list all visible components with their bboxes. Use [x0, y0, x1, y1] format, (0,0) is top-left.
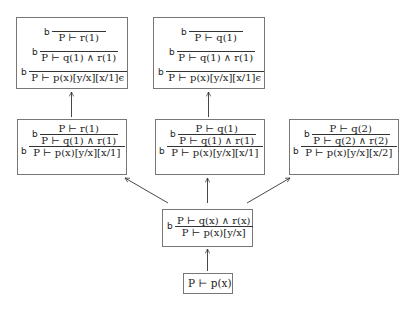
root-judgement: P ⊢ p(x) — [188, 277, 232, 289]
rule-line: b P ⊢ p(x)[y/x][x/1] — [159, 146, 263, 158]
rule-line: b P ⊢ q(2) P ⊢ q(2) ∧ r(2) — [304, 123, 390, 146]
rule-label: b — [304, 129, 310, 139]
rule-line: b P ⊢ q(1) ∧ r(1) — [169, 42, 255, 63]
rule-label: b — [32, 129, 38, 139]
node-top-middle: b P ⊢ q(1) b P ⊢ q(1) ∧ r(1) b P ⊢ p(x)[… — [153, 17, 265, 89]
conclusion: P ⊢ q(1) ∧ r(1) — [40, 135, 117, 146]
rule-line: b P ⊢ p(x)[y/x][x/2] — [293, 146, 397, 158]
rule-label: b — [21, 67, 27, 77]
rule-label: b — [158, 67, 164, 77]
rule-label: b — [32, 47, 38, 57]
rule-line: b P ⊢ p(x)[y/x][x/1]ϵ — [21, 62, 127, 83]
conclusion: P ⊢ p(x)[y/x][x/1] — [32, 147, 121, 158]
conclusion: P ⊢ q(2) ∧ r(2) — [312, 135, 389, 146]
rule-label: b — [293, 146, 299, 156]
rule-label: b — [44, 27, 50, 37]
rule-line: b P ⊢ q(x) ∧ r(x) P ⊢ p(x)[y/x] — [167, 215, 253, 238]
premise: P ⊢ r(1) — [40, 123, 118, 135]
rule-line: b P ⊢ p(x)[y/x][x/1]ϵ — [158, 62, 264, 83]
rule-line: b P ⊢ q(1) ∧ r(1) — [32, 42, 118, 63]
rule-line: b P ⊢ q(1) P ⊢ q(1) ∧ r(1) — [170, 123, 256, 146]
conclusion: P ⊢ p(x)[y/x][x/1]ϵ — [30, 72, 125, 83]
premise — [52, 22, 106, 32]
conclusion: P ⊢ p(x)[y/x] — [181, 227, 247, 238]
edge-lower-to-midleft — [125, 178, 168, 203]
rule-label: b — [167, 221, 173, 231]
node-mid-left: b P ⊢ r(1) P ⊢ q(1) ∧ r(1) b P ⊢ p(x)[y/… — [17, 119, 127, 175]
rule-label: b — [21, 146, 27, 156]
rule-line: b P ⊢ q(1) — [181, 22, 243, 43]
premise — [189, 22, 243, 32]
premise — [166, 62, 264, 72]
premise — [177, 42, 255, 52]
premise — [29, 62, 127, 72]
rule-label: b — [159, 146, 165, 156]
edge-lower-to-midright — [247, 178, 290, 203]
premise: P ⊢ q(2) — [312, 123, 390, 135]
premise — [40, 42, 118, 52]
conclusion: P ⊢ p(x)[y/x][x/1] — [170, 147, 259, 158]
node-root: P ⊢ p(x) — [183, 273, 233, 294]
node-mid-right: b P ⊢ q(2) P ⊢ q(2) ∧ r(2) b P ⊢ p(x)[y/… — [289, 119, 399, 175]
rule-line: b P ⊢ r(1) — [44, 22, 106, 43]
premise: P ⊢ q(1) — [178, 123, 256, 135]
rule-line: b P ⊢ p(x)[y/x][x/1] — [21, 146, 125, 158]
conclusion: P ⊢ q(1) ∧ r(1) — [178, 135, 255, 146]
rule-label: b — [181, 27, 187, 37]
node-top-left: b P ⊢ r(1) b P ⊢ q(1) ∧ r(1) b P ⊢ p(x)[… — [16, 17, 128, 89]
conclusion: P ⊢ p(x)[y/x][x/1]ϵ — [167, 72, 262, 83]
rule-label: b — [170, 129, 176, 139]
rule-label: b — [169, 47, 175, 57]
node-mid-middle: b P ⊢ q(1) P ⊢ q(1) ∧ r(1) b P ⊢ p(x)[y/… — [155, 119, 265, 175]
rule-line: b P ⊢ r(1) P ⊢ q(1) ∧ r(1) — [32, 123, 118, 146]
premise: P ⊢ q(x) ∧ r(x) — [175, 215, 253, 227]
node-lower-middle: b P ⊢ q(x) ∧ r(x) P ⊢ p(x)[y/x] — [162, 209, 253, 247]
conclusion: P ⊢ p(x)[y/x][x/2] — [304, 147, 393, 158]
